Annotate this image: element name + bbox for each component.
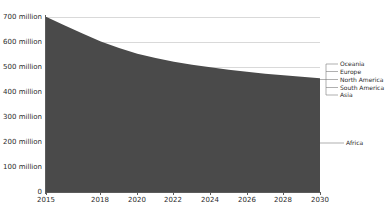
x-tick-2024 [210,192,211,195]
y-tick-label-400m: 400 million [3,89,42,96]
legend: Oceania Europe North America South Ameri… [318,0,387,212]
y-tick-label-700m: 700 million [3,14,42,21]
series-stacked-area [46,17,320,192]
y-tick-label-100m: 100 million [3,164,42,171]
x-tick-2020 [137,192,138,195]
y-axis-labels: 700 million 600 million 500 million 400 … [0,0,42,212]
y-axis-line [45,15,46,194]
x-tick-label-2022: 2022 [164,196,182,204]
legend-leader-lines [318,0,387,212]
x-tick-label-2020: 2020 [128,196,146,204]
legend-label-south-america[interactable]: South America [340,85,384,91]
x-tick-label-2018: 2018 [91,196,109,204]
x-tick-label-2026: 2026 [238,196,256,204]
y-tick-label-0: 0 [38,189,42,196]
y-tick-label-300m: 300 million [3,114,42,121]
legend-label-africa[interactable]: Africa [346,140,363,146]
legend-label-oceania[interactable]: Oceania [340,61,365,67]
x-tick-2022 [173,192,174,195]
y-tick-label-200m: 200 million [3,139,42,146]
x-axis-line [45,192,321,193]
x-tick-label-2024: 2024 [201,196,219,204]
legend-label-europe[interactable]: Europe [340,69,361,75]
series-area-path [46,17,320,192]
legend-label-north-america[interactable]: North America [340,77,383,83]
legend-label-asia[interactable]: Asia [340,92,353,98]
x-tick-label-2015: 2015 [37,196,55,204]
area-chart: 700 million 600 million 500 million 400 … [0,0,387,212]
x-tick-2015 [46,192,47,195]
x-tick-2018 [100,192,101,195]
y-tick-label-600m: 600 million [3,39,42,46]
x-tick-2026 [247,192,248,195]
x-tick-2028 [283,192,284,195]
y-tick-label-500m: 500 million [3,64,42,71]
x-tick-label-2028: 2028 [274,196,292,204]
